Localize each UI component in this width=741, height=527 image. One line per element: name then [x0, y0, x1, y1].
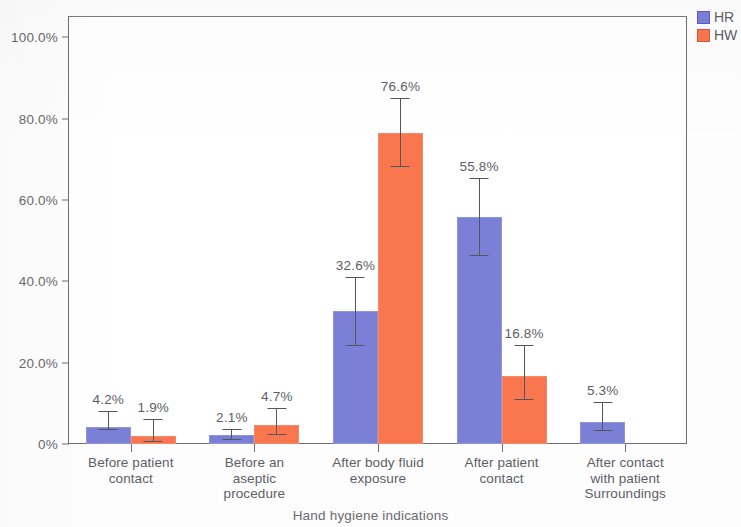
- error-bar-line: [276, 408, 277, 435]
- error-bar-line: [479, 178, 480, 256]
- legend-swatch-hw-icon: [697, 29, 710, 42]
- chart-figure: 0%20.0%40.0%60.0%80.0%100.0% 4.2%1.9%2.1…: [0, 0, 741, 527]
- error-bar-cap-bottom: [267, 434, 286, 435]
- legend-label-hr: HR: [714, 9, 734, 25]
- x-axis-category-line: After contact: [563, 455, 687, 471]
- error-bar-line: [355, 277, 356, 345]
- y-axis-tick-mark: [62, 281, 69, 282]
- bar-group: 55.8%16.8%: [440, 17, 564, 444]
- bar-group: 5.3%: [563, 17, 687, 444]
- error-bar-cap-top: [515, 345, 534, 346]
- x-axis-category-line: contact: [440, 471, 564, 487]
- bar-slot: 76.6%: [378, 133, 423, 445]
- plot-area: 4.2%1.9%2.1%4.7%32.6%76.6%55.8%16.8%5.3%: [69, 17, 687, 444]
- y-axis-tick-label: 100.0%: [11, 30, 62, 45]
- bar-data-label: 5.3%: [587, 383, 619, 398]
- error-bar-cap-top: [346, 277, 365, 278]
- y-axis-tick: 80.0%: [0, 111, 69, 126]
- error-bar-cap-bottom: [144, 441, 163, 442]
- legend-label-hw: HW: [714, 27, 737, 43]
- error-bar: [470, 178, 489, 256]
- x-axis-category-label: After body fluidexposure: [316, 455, 440, 486]
- x-axis-tick-mark: [378, 444, 379, 452]
- x-axis-category-line: Surroundings: [563, 486, 687, 502]
- legend-swatch-hr-icon: [697, 11, 710, 24]
- chart-legend: HR HW: [697, 9, 741, 45]
- x-axis-category-line: with patient: [563, 471, 687, 487]
- bar-slot: 1.9%: [131, 436, 176, 444]
- bar-group: 4.2%1.9%: [69, 17, 193, 444]
- x-axis-tick-mark: [254, 444, 255, 452]
- x-axis-category-line: exposure: [316, 471, 440, 487]
- x-axis-tick-mark: [131, 444, 132, 452]
- x-axis-category-line: procedure: [193, 486, 317, 502]
- bar-group: 32.6%76.6%: [316, 17, 440, 444]
- error-bar-line: [524, 345, 525, 400]
- error-bar-cap-bottom: [593, 430, 612, 431]
- error-bar-line: [400, 98, 401, 168]
- x-axis-category-line: After patient: [440, 455, 564, 471]
- y-axis-tick-label: 0%: [38, 437, 62, 452]
- bar-hw[interactable]: [378, 133, 423, 445]
- bar-data-label: 32.6%: [336, 258, 375, 273]
- x-axis-category-line: Before an: [193, 455, 317, 471]
- bar-data-label: 4.7%: [261, 389, 293, 404]
- x-axis-category-line: contact: [69, 471, 193, 487]
- error-bar-cap-top: [593, 402, 612, 403]
- error-bar: [222, 429, 241, 439]
- y-axis-tick: 0%: [0, 437, 69, 452]
- error-bar: [346, 277, 365, 345]
- error-bar-cap-bottom: [515, 399, 534, 400]
- y-axis-tick-mark: [62, 37, 69, 38]
- y-axis-tick-label: 20.0%: [19, 355, 62, 370]
- bar-data-label: 55.8%: [459, 159, 498, 174]
- bar-slot: 2.1%: [209, 435, 254, 444]
- bar-data-label: 16.8%: [504, 326, 543, 341]
- error-bar-cap-top: [222, 429, 241, 430]
- y-axis-tick: 60.0%: [0, 193, 69, 208]
- y-axis-tick-label: 60.0%: [19, 193, 62, 208]
- bar-slot: 5.3%: [580, 422, 625, 444]
- legend-item-hr: HR: [697, 9, 741, 25]
- y-axis-tick-mark: [62, 200, 69, 201]
- y-axis-tick: 20.0%: [0, 355, 69, 370]
- bar-data-label: 4.2%: [93, 392, 125, 407]
- error-bar: [267, 408, 286, 435]
- error-bar: [144, 419, 163, 442]
- error-bar-cap-top: [470, 178, 489, 179]
- error-bar-cap-top: [99, 411, 118, 412]
- error-bar-cap-bottom: [391, 166, 410, 167]
- error-bar-cap-top: [267, 408, 286, 409]
- x-axis-tick-mark: [502, 444, 503, 452]
- x-axis-category-line: After body fluid: [316, 455, 440, 471]
- bar-data-label: 76.6%: [381, 79, 420, 94]
- error-bar: [593, 402, 612, 430]
- y-axis-tick-mark: [62, 444, 69, 445]
- x-axis-title: Hand hygiene indications: [0, 508, 741, 523]
- bar-group: 2.1%4.7%: [193, 17, 317, 444]
- y-axis-tick: 40.0%: [0, 274, 69, 289]
- y-axis-tick-mark: [62, 118, 69, 119]
- x-axis-category-line: aseptic: [193, 471, 317, 487]
- error-bar-cap-bottom: [222, 439, 241, 440]
- bar-data-label: 1.9%: [138, 400, 170, 415]
- error-bar: [99, 411, 118, 431]
- bar-slot: 16.8%: [502, 376, 547, 444]
- x-axis-category-line: Before patient: [69, 455, 193, 471]
- error-bar: [515, 345, 534, 400]
- x-axis-tick-mark: [625, 444, 626, 452]
- legend-item-hw: HW: [697, 27, 741, 43]
- error-bar-line: [108, 411, 109, 431]
- error-bar-cap-bottom: [99, 429, 118, 430]
- x-axis-category-label: After contactwith patientSurroundings: [563, 455, 687, 502]
- bar-slot: 55.8%: [457, 217, 502, 444]
- y-axis-tick: 100.0%: [0, 30, 69, 45]
- x-axis-category-label: Before anasepticprocedure: [193, 455, 317, 502]
- bar-data-label: 2.1%: [216, 410, 248, 425]
- error-bar-line: [602, 402, 603, 430]
- error-bar-line: [153, 419, 154, 442]
- error-bar-cap-bottom: [346, 345, 365, 346]
- error-bar-cap-top: [391, 98, 410, 99]
- bar-slot: 4.7%: [254, 425, 299, 444]
- y-axis-tick-mark: [62, 362, 69, 363]
